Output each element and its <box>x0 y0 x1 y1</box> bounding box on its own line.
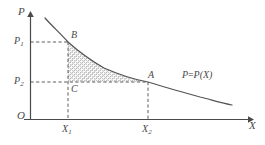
origin-label: O <box>17 110 25 121</box>
point-label-a: A <box>148 70 154 80</box>
point-label-c: C <box>71 84 78 94</box>
tick-label-x2-subscript: 2 <box>148 128 152 136</box>
x-axis-label: X <box>249 120 256 131</box>
tick-label-x1: X1 <box>62 124 72 136</box>
tick-label-p1-subscript: 1 <box>20 40 24 48</box>
tick-label-p1: P1 <box>14 36 24 48</box>
tick-label-x1-subscript: 1 <box>68 128 72 136</box>
shaded-region <box>68 42 148 82</box>
point-label-b: B <box>71 30 77 40</box>
tick-label-x2: X2 <box>142 124 152 136</box>
curve-equation-rhs: P(X) <box>194 69 213 80</box>
p-axis-label: P <box>18 6 25 17</box>
figure-canvas: P X O P1 P2 X1 X2 B A C P=P(X) <box>0 0 265 145</box>
curve-equation-label: P=P(X) <box>182 70 212 80</box>
tick-label-p2: P2 <box>14 76 24 88</box>
diagram-svg <box>0 0 265 145</box>
tick-label-p2-subscript: 2 <box>20 80 24 88</box>
